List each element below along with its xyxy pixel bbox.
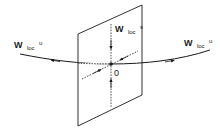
stable-manifold-label: W loc s bbox=[115, 18, 143, 37]
origin-point bbox=[109, 62, 113, 66]
unstable-manifold-label-left: W loc u bbox=[14, 34, 42, 53]
unstable-manifold-label-right: W loc u bbox=[184, 32, 212, 51]
stable-arrow-lower-left-icon bbox=[93, 70, 100, 74]
unstable-arrow-right-icon bbox=[165, 61, 173, 63]
stable-arrow-upper-right-icon bbox=[121, 56, 128, 60]
origin-label: 0 bbox=[114, 68, 119, 78]
stable-plane bbox=[78, 5, 142, 126]
manifold-diagram: 0 W loc s W loc u W loc u bbox=[0, 0, 220, 135]
unstable-manifold-curve bbox=[20, 50, 210, 64]
